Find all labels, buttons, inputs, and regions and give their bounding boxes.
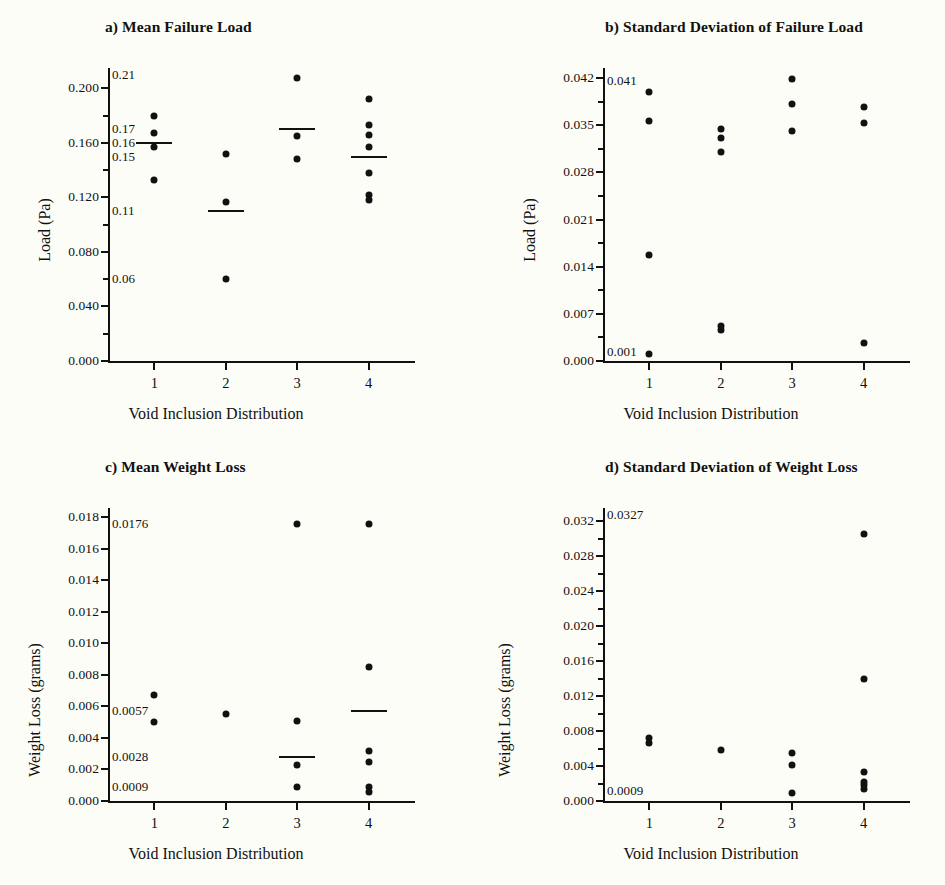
y-tick-minor: [598, 195, 603, 197]
data-point: [860, 785, 867, 792]
panel-c: c) Mean Weight Loss Weight Loss (grams) …: [0, 440, 470, 885]
x-tick-label: 2: [717, 815, 724, 832]
y-tick: [101, 611, 108, 613]
panel-b-plot: 0.0000.0070.0140.0210.0280.0350.04212340…: [603, 68, 910, 361]
y-tick: [596, 124, 603, 126]
panel-d: d) Standard Deviation of Weight Loss Wei…: [470, 440, 945, 885]
panel-c-xlabel: Void Inclusion Distribution: [129, 845, 304, 863]
x-tick-label: 2: [717, 375, 724, 392]
y-tick-label: 0.014: [563, 259, 594, 275]
y-tick-label: 0.024: [563, 583, 594, 599]
panel-d-ylabel: Weight Loss (grams): [496, 643, 514, 777]
y-tick-minor: [598, 678, 603, 680]
x-tick: [863, 803, 865, 810]
panel-a-title: a) Mean Failure Load: [105, 18, 252, 36]
data-point: [294, 783, 301, 790]
y-tick: [101, 360, 108, 362]
y-tick: [596, 695, 603, 697]
data-point: [860, 675, 867, 682]
y-tick: [596, 730, 603, 732]
y-tick-minor: [598, 148, 603, 150]
y-axis-line: [603, 508, 605, 801]
y-tick-label: 0.008: [68, 667, 99, 683]
y-tick-label: 0.018: [68, 509, 99, 525]
data-point: [717, 747, 724, 754]
panel-a-plot: 0.0000.0400.0800.1200.1600.20012340.210.…: [108, 68, 415, 361]
data-point: [789, 100, 796, 107]
x-tick-label: 4: [860, 375, 867, 392]
data-point: [860, 339, 867, 346]
y-tick: [101, 196, 108, 198]
mean-line: [351, 710, 387, 712]
data-point: [365, 664, 372, 671]
y-tick-minor: [103, 115, 108, 117]
y-tick-minor: [103, 333, 108, 335]
x-tick: [648, 363, 650, 370]
panel-b-xlabel: Void Inclusion Distribution: [624, 405, 799, 423]
value-annotation: 0.0057: [112, 703, 148, 719]
panel-d-plot: 0.0000.0040.0080.0120.0160.0200.0240.028…: [603, 508, 910, 801]
y-tick: [101, 705, 108, 707]
y-tick-label: 0.000: [68, 353, 99, 369]
y-tick-minor: [598, 289, 603, 291]
data-point: [789, 749, 796, 756]
data-point: [860, 119, 867, 126]
data-point: [151, 112, 158, 119]
data-point: [222, 711, 229, 718]
y-tick-minor: [598, 608, 603, 610]
y-tick-label: 0.000: [68, 793, 99, 809]
y-tick: [596, 765, 603, 767]
data-point: [717, 135, 724, 142]
x-tick-label: 2: [222, 815, 229, 832]
x-tick-label: 1: [151, 375, 158, 392]
data-point: [860, 531, 867, 538]
y-tick-label: 0.028: [563, 164, 594, 180]
y-tick-label: 0.000: [563, 353, 594, 369]
y-tick-label: 0.035: [563, 117, 594, 133]
y-tick-label: 0.004: [68, 730, 99, 746]
y-tick: [596, 520, 603, 522]
x-tick-label: 4: [860, 815, 867, 832]
y-tick-label: 0.010: [68, 635, 99, 651]
data-point: [151, 144, 158, 151]
x-tick-label: 4: [365, 375, 372, 392]
data-point: [717, 327, 724, 334]
data-point: [294, 156, 301, 163]
data-point: [646, 88, 653, 95]
data-point: [789, 76, 796, 83]
data-point: [717, 149, 724, 156]
figure-root: a) Mean Failure Load Load (Pa) 0.0000.04…: [0, 0, 945, 885]
x-tick-label: 2: [222, 375, 229, 392]
data-point: [365, 197, 372, 204]
x-tick-label: 4: [365, 815, 372, 832]
y-tick-label: 0.160: [68, 135, 99, 151]
y-axis-line: [108, 508, 110, 801]
value-annotation: 0.11: [112, 203, 135, 219]
y-tick-minor: [598, 538, 603, 540]
mean-line: [136, 142, 172, 144]
y-tick-label: 0.028: [563, 548, 594, 564]
x-tick: [720, 803, 722, 810]
y-tick-label: 0.020: [563, 618, 594, 634]
y-tick-label: 0.120: [68, 189, 99, 205]
y-tick: [596, 313, 603, 315]
y-tick-minor: [598, 713, 603, 715]
panel-b-ylabel: Load (Pa): [521, 198, 539, 262]
data-point: [222, 150, 229, 157]
value-annotation: 0.0009: [112, 779, 148, 795]
data-point: [294, 133, 301, 140]
data-point: [365, 131, 372, 138]
panel-b-title: b) Standard Deviation of Failure Load: [605, 18, 863, 36]
y-tick-label: 0.000: [563, 793, 594, 809]
data-point: [151, 130, 158, 137]
value-annotation: 0.0028: [112, 749, 148, 765]
data-point: [646, 740, 653, 747]
y-tick-label: 0.008: [563, 723, 594, 739]
x-tick-label: 3: [294, 375, 301, 392]
y-tick-label: 0.016: [563, 653, 594, 669]
x-tick: [225, 363, 227, 370]
data-point: [860, 104, 867, 111]
data-point: [789, 790, 796, 797]
data-point: [365, 144, 372, 151]
y-tick: [596, 171, 603, 173]
